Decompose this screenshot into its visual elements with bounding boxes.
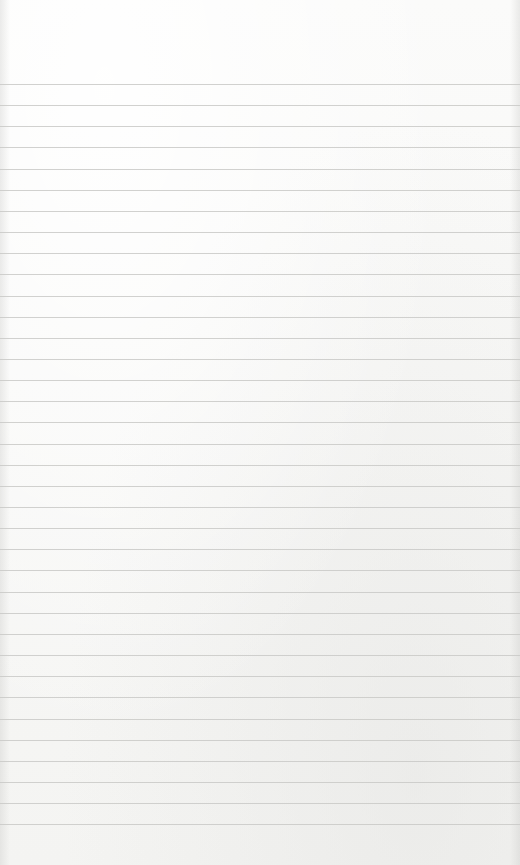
ruled-line bbox=[0, 697, 520, 698]
ruled-line bbox=[0, 338, 520, 339]
ruled-line bbox=[0, 719, 520, 720]
ruled-line bbox=[0, 359, 520, 360]
ruled-line bbox=[0, 401, 520, 402]
ruled-line bbox=[0, 761, 520, 762]
ruled-line bbox=[0, 105, 520, 106]
ruled-line bbox=[0, 613, 520, 614]
ruled-line bbox=[0, 803, 520, 804]
ruled-line bbox=[0, 528, 520, 529]
ruled-line bbox=[0, 274, 520, 275]
ruled-line bbox=[0, 169, 520, 170]
ruled-line bbox=[0, 676, 520, 677]
ruled-line bbox=[0, 253, 520, 254]
ruled-line bbox=[0, 782, 520, 783]
lined-paper bbox=[0, 0, 520, 865]
ruled-line bbox=[0, 592, 520, 593]
ruled-line bbox=[0, 84, 520, 85]
ruled-line bbox=[0, 486, 520, 487]
ruled-line bbox=[0, 655, 520, 656]
ruled-line bbox=[0, 147, 520, 148]
ruled-line bbox=[0, 380, 520, 381]
ruled-line bbox=[0, 296, 520, 297]
ruled-line bbox=[0, 507, 520, 508]
ruled-line bbox=[0, 570, 520, 571]
ruled-line bbox=[0, 190, 520, 191]
ruled-line bbox=[0, 444, 520, 445]
ruled-line bbox=[0, 232, 520, 233]
ruled-line bbox=[0, 317, 520, 318]
ruled-line bbox=[0, 740, 520, 741]
ruled-line bbox=[0, 549, 520, 550]
ruled-line bbox=[0, 422, 520, 423]
paper-left-edge-shadow bbox=[0, 0, 10, 865]
ruled-line bbox=[0, 211, 520, 212]
ruled-line bbox=[0, 634, 520, 635]
ruled-line bbox=[0, 465, 520, 466]
paper-right-edge-shadow bbox=[510, 0, 520, 865]
ruled-line bbox=[0, 824, 520, 825]
ruled-line bbox=[0, 126, 520, 127]
